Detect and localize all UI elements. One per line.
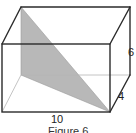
rectangular-prism-figure: 6 4 10 Figure 6: [0, 0, 136, 133]
prism-diagram: [0, 0, 136, 133]
depth-label: 4: [118, 91, 124, 102]
length-label: 10: [51, 114, 63, 125]
figure-caption: Figure 6: [48, 126, 88, 133]
height-label: 6: [128, 47, 134, 58]
shaded-triangle: [21, 7, 110, 112]
